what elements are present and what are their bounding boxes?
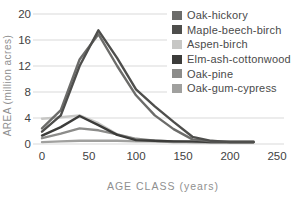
- legend: Oak-hickory Maple-beech-birch Aspen-birc…: [167, 4, 299, 98]
- x-tick-label-150: 150: [168, 149, 198, 163]
- legend-label: Oak-gum-cypress: [187, 82, 277, 94]
- x-tick-label-250: 250: [262, 149, 292, 163]
- legend-item-maple-beech-birch: Maple-beech-birch: [167, 23, 299, 38]
- y-axis-title: AREA (million acres): [1, 22, 14, 150]
- legend-item-aspen-birch: Aspen-birch: [167, 37, 299, 52]
- legend-swatch-icon: [172, 69, 182, 78]
- legend-swatch-icon: [172, 84, 182, 93]
- x-tick-label-100: 100: [121, 149, 151, 163]
- x-tick-label-50: 50: [74, 149, 104, 163]
- legend-label: Aspen-birch: [187, 38, 248, 50]
- forest-area-by-age-chart: 201612840050100150200250 AREA (million a…: [0, 0, 299, 202]
- legend-swatch-icon: [172, 40, 182, 49]
- legend-label: Maple-beech-birch: [187, 24, 282, 36]
- legend-item-oak-pine: Oak-pine: [167, 66, 299, 81]
- legend-item-oak-hickory: Oak-hickory: [167, 8, 299, 23]
- legend-item-elm-ash-cottonwood: Elm-ash-cottonwood: [167, 52, 299, 67]
- legend-item-oak-gum-cypress: Oak-gum-cypress: [167, 81, 299, 96]
- legend-swatch-icon: [172, 25, 182, 34]
- legend-label: Oak-pine: [187, 68, 233, 80]
- legend-swatch-icon: [172, 55, 182, 64]
- legend-label: Oak-hickory: [187, 9, 248, 21]
- legend-label: Elm-ash-cottonwood: [187, 53, 291, 65]
- x-axis-title: AGE CLASS (years): [80, 180, 246, 192]
- x-tick-label-200: 200: [215, 149, 245, 163]
- x-tick-label-0: 0: [27, 149, 57, 163]
- legend-swatch-icon: [172, 11, 182, 20]
- y-tick-label-20: 20: [0, 8, 31, 21]
